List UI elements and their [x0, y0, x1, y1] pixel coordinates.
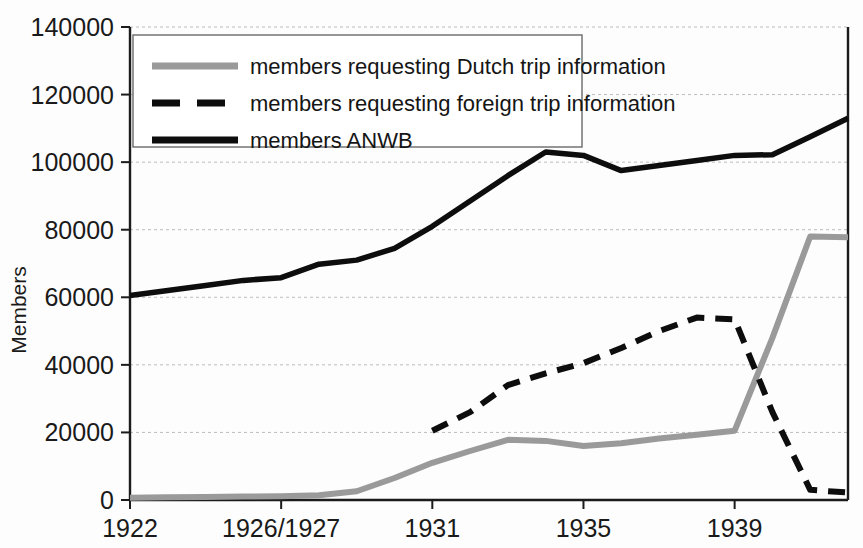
- series-line-0: [130, 236, 848, 497]
- chart-figure: 020000400006000080000100000120000140000 …: [0, 0, 863, 548]
- y-axis-title: Members: [7, 266, 30, 354]
- y-tick-marks-group: [121, 27, 130, 500]
- x-tick-label: 1935: [556, 514, 612, 542]
- x-tick-label: 1931: [405, 514, 461, 542]
- y-tick-label: 120000: [31, 81, 114, 109]
- x-tick-label: 1926/1927: [222, 514, 340, 542]
- x-tick-marks-group: [130, 500, 735, 509]
- y-tick-label: 60000: [44, 283, 114, 311]
- y-tick-label: 100000: [31, 148, 114, 176]
- legend-label-1: members requesting foreign trip informat…: [250, 91, 676, 116]
- x-tick-label: 1939: [707, 514, 763, 542]
- chart-legend: members requesting Dutch trip informatio…: [133, 35, 676, 153]
- line-chart: 020000400006000080000100000120000140000 …: [0, 0, 863, 548]
- y-tick-label: 40000: [44, 351, 114, 379]
- y-tick-label: 140000: [31, 13, 114, 41]
- y-tick-label: 80000: [44, 216, 114, 244]
- y-tick-label: 0: [100, 486, 114, 514]
- legend-label-2: members ANWB: [250, 128, 413, 153]
- y-tick-labels-group: 020000400006000080000100000120000140000: [31, 13, 114, 514]
- y-tick-label: 20000: [44, 418, 114, 446]
- x-tick-label: 1922: [102, 514, 158, 542]
- series-group: [130, 118, 848, 497]
- legend-label-0: members requesting Dutch trip informatio…: [250, 54, 666, 79]
- series-line-1: [432, 318, 848, 493]
- x-tick-labels-group: 19221926/1927193119351939: [102, 514, 762, 542]
